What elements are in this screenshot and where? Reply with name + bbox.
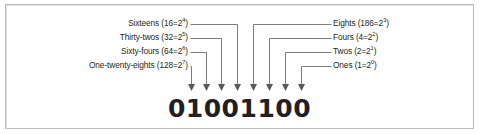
arrowhead-bit-4 <box>250 84 257 91</box>
label-one-twenty-eights-text: One-twenty-eights (128=2 <box>89 60 182 70</box>
leader-line-twos <box>286 53 332 85</box>
leader-line-fours <box>270 39 332 85</box>
label-eights: Eights (186=23) <box>333 19 389 28</box>
leader-line-sixteens <box>191 25 238 85</box>
label-thirty-twos: Thirty-twos (32=25) <box>120 33 188 42</box>
label-eights-tail: ) <box>386 18 389 28</box>
label-fours-text: Fours (4=2 <box>333 32 372 42</box>
arrowhead-bit-6 <box>282 84 289 91</box>
figure-canvas: Sixteens (16=24) Thirty-twos (32=25) Six… <box>0 0 479 134</box>
label-sixty-fours: Sixty-fours (64=26) <box>121 47 188 56</box>
arrowhead-bit-5 <box>266 84 273 91</box>
label-fours-tail: ) <box>375 32 378 42</box>
label-ones-tail: ) <box>374 60 377 70</box>
label-eights-text: Eights (186=2 <box>333 18 383 28</box>
label-ones: Ones (1=20) <box>333 61 377 70</box>
leader-line-ones <box>302 67 332 85</box>
arrowhead-bit-3 <box>234 84 241 91</box>
leader-line-sixty-fours <box>191 53 207 85</box>
leader-line-thirty-twos <box>191 39 222 85</box>
label-twos-text: Twos (2=2 <box>333 46 371 56</box>
label-twos: Twos (2=21) <box>333 47 376 56</box>
arrowhead-bit-7 <box>298 84 305 91</box>
label-sixty-fours-tail: ) <box>185 46 188 56</box>
arrowhead-bit-1 <box>203 84 210 91</box>
arrowhead-bit-0 <box>188 84 195 91</box>
label-fours: Fours (4=22) <box>333 33 378 42</box>
label-thirty-twos-tail: ) <box>185 32 188 42</box>
leader-line-one-twenty-eights <box>191 67 192 85</box>
label-thirty-twos-text: Thirty-twos (32=2 <box>120 32 183 42</box>
label-one-twenty-eights-tail: ) <box>185 60 188 70</box>
label-sixteens-text: Sixteens (16=2 <box>128 18 182 28</box>
binary-number: 01001100 <box>0 94 479 123</box>
binary-place-values-figure: Sixteens (16=24) Thirty-twos (32=25) Six… <box>0 0 479 134</box>
label-sixteens: Sixteens (16=24) <box>128 19 188 28</box>
label-one-twenty-eights: One-twenty-eights (128=27) <box>89 61 188 70</box>
arrowhead-bit-2 <box>218 84 225 91</box>
label-sixteens-tail: ) <box>185 18 188 28</box>
label-ones-text: Ones (1=2 <box>333 60 371 70</box>
leader-line-eights <box>254 25 332 85</box>
label-twos-tail: ) <box>374 46 377 56</box>
label-sixty-fours-text: Sixty-fours (64=2 <box>121 46 182 56</box>
